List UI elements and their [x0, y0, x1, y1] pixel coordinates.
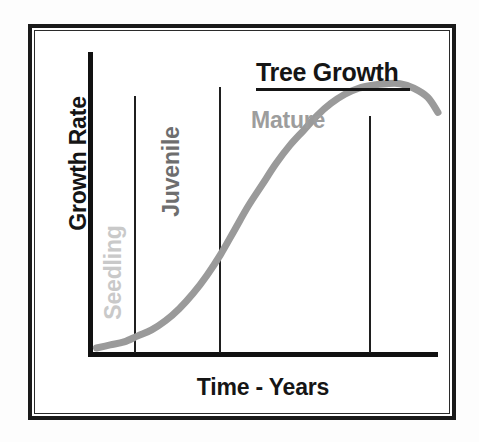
chart-title: Tree Growth	[256, 58, 399, 87]
x-axis-label: Time - Years	[88, 374, 438, 401]
zone-label-juvenile: Juvenile	[158, 92, 185, 252]
chart-title-underline	[256, 88, 410, 91]
zone-label-mature: Mature	[251, 107, 325, 134]
scanned-page: Tree Growth Growth Rate Time - Years See…	[0, 0, 479, 442]
plot-area: Tree Growth Growth Rate Time - Years See…	[34, 30, 450, 414]
y-axis-label: Growth Rate	[65, 84, 92, 244]
zone-label-seedling: Seedling	[100, 193, 127, 353]
